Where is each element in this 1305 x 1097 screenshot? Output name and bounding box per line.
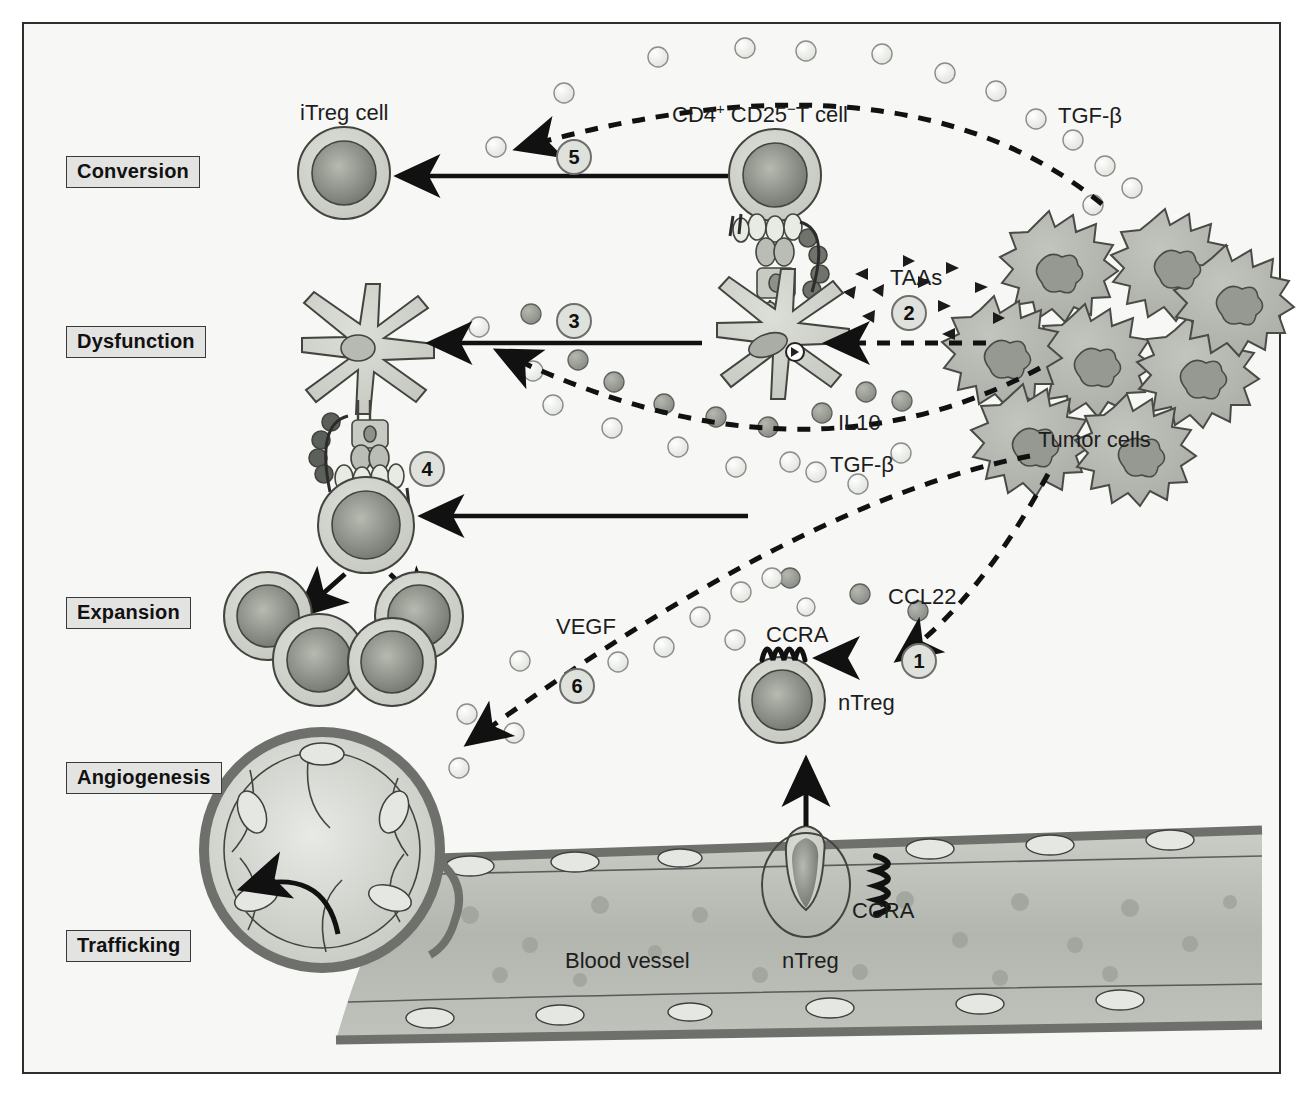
label-ntreg-tissue: nTreg	[838, 690, 895, 716]
label-vegf: VEGF	[556, 614, 616, 640]
label-il10: IL10	[838, 410, 881, 436]
stage-label-conversion[interactable]: Conversion	[66, 156, 200, 188]
label-tgfb-mid: TGF-β	[830, 452, 894, 478]
step-marker-number: 3	[568, 310, 579, 332]
step-marker-number: 1	[913, 650, 924, 672]
dendritic-cell-left	[302, 284, 434, 414]
step-marker-number: 4	[421, 458, 433, 480]
label-ntreg-vessel: nTreg	[782, 948, 839, 974]
label-cd25-minus: −	[787, 100, 796, 117]
step-marker-number: 6	[571, 675, 582, 697]
label-itreg-cell: iTreg cell	[300, 100, 388, 126]
step-marker-3[interactable]: 3	[557, 304, 591, 338]
treg-expanded-cluster	[224, 572, 463, 706]
stage-label-dysfunction[interactable]: Dysfunction	[66, 326, 206, 358]
stage-label-expansion[interactable]: Expansion	[66, 597, 191, 629]
dendritic-cell-right	[717, 269, 849, 399]
step-marker-number: 5	[568, 146, 579, 168]
step-marker-6[interactable]: 6	[560, 669, 594, 703]
arrow-step1-ccl22	[900, 474, 1048, 658]
label-ccra-tissue: CCRA	[766, 622, 828, 648]
label-cd4-prefix: CD4	[672, 102, 716, 127]
cd4-t-cell-graphic	[729, 129, 821, 221]
label-blood-vessel: Blood vessel	[565, 948, 690, 974]
label-taas: TAAs	[890, 265, 942, 291]
stage-label-angiogenesis[interactable]: Angiogenesis	[66, 762, 222, 794]
label-tgfb-top: TGF-β	[1058, 103, 1122, 129]
solid-arrows	[400, 176, 748, 516]
step-marker-5[interactable]: 5	[557, 140, 591, 174]
step-marker-4[interactable]: 4	[410, 452, 444, 486]
figure-root: 123456 Conversion Dysfunction Expansion …	[0, 0, 1305, 1097]
label-ccl22: CCL22	[888, 584, 956, 610]
label-cd4-plus: +	[716, 100, 725, 117]
stage-label-trafficking[interactable]: Trafficking	[66, 930, 191, 962]
ntreg-tissue-graphic	[739, 649, 825, 743]
label-cd4-t-cell: CD4+ CD25−T cell	[672, 100, 848, 128]
step-marker-2[interactable]: 2	[892, 296, 926, 330]
label-tumor-cells: Tumor cells	[1038, 427, 1151, 453]
treg-cell-expanding	[318, 477, 414, 573]
itreg-cell-graphic	[298, 127, 390, 219]
label-ccra-vessel: CCRA	[852, 898, 914, 924]
step-marker-1[interactable]: 1	[902, 644, 936, 678]
step-marker-number: 2	[903, 302, 914, 324]
